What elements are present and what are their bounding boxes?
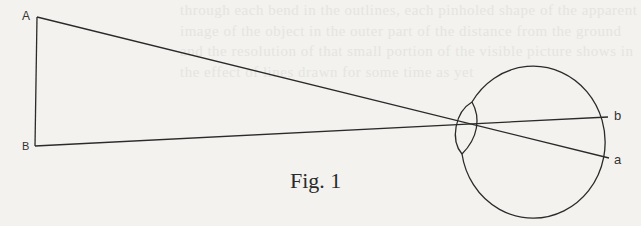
lens-back — [462, 102, 477, 154]
ray-b — [35, 117, 608, 146]
label-B: B — [22, 140, 29, 152]
figure-caption: Fig. 1 — [290, 168, 341, 194]
object-line — [35, 17, 37, 146]
lens-front — [455, 102, 472, 154]
eyeball-outline — [462, 66, 605, 218]
label-a: a — [614, 152, 621, 167]
label-b: b — [614, 108, 621, 123]
label-A: A — [22, 9, 30, 23]
ray-a — [37, 17, 609, 158]
